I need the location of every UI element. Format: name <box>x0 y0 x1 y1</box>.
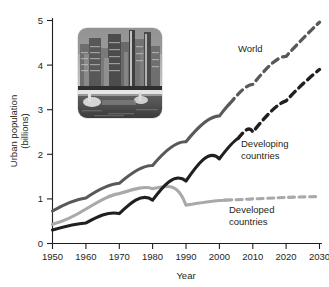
chart-figure: 0 1 2 3 4 5 Urban population (billions) … <box>0 0 329 287</box>
x-tick-label-1960: 1960 <box>75 251 96 262</box>
x-axis-title: Year <box>176 270 195 281</box>
series-label-developed-countries: Developed countries <box>229 204 274 227</box>
y-axis-title-line1: Urban population <box>8 95 19 167</box>
series-world <box>53 22 320 211</box>
y-axis-title-line2: (billions) <box>19 113 30 148</box>
series-world-dashed <box>230 22 320 104</box>
series-label-developing-countries: Developing countries <box>241 138 289 161</box>
series-label-developed-line2: countries <box>229 216 268 227</box>
series-label-developing-line2: countries <box>241 150 280 161</box>
series-label-developed-line1: Developed <box>229 204 274 215</box>
series-label-developing-line1: Developing <box>241 138 289 149</box>
x-axis-ticks <box>53 244 320 250</box>
y-tick-label-3: 3 <box>38 104 43 115</box>
x-tick-label-2030: 2030 <box>309 251 329 262</box>
x-axis-tick-labels: 1950 1960 1970 1980 1990 2000 2010 2020 … <box>42 251 329 262</box>
series-developed-countries-dashed <box>226 197 320 201</box>
series-world-solid <box>53 104 230 211</box>
y-tick-label-4: 4 <box>38 60 43 71</box>
x-tick-label-2020: 2020 <box>276 251 297 262</box>
x-tick-label-1970: 1970 <box>109 251 130 262</box>
x-tick-label-2000: 2000 <box>209 251 230 262</box>
series-developing-countries-dashed <box>238 70 320 139</box>
y-axis-tick-labels: 0 1 2 3 4 5 <box>38 15 43 249</box>
y-tick-label-1: 1 <box>38 193 43 204</box>
x-tick-label-1950: 1950 <box>42 251 63 262</box>
urban-population-line-chart: 0 1 2 3 4 5 Urban population (billions) … <box>0 0 329 287</box>
y-axis-title: Urban population (billions) <box>8 95 30 167</box>
x-tick-label-1990: 1990 <box>175 251 196 262</box>
y-tick-label-5: 5 <box>38 15 43 26</box>
series-label-world: World <box>238 43 263 54</box>
series-developed-countries-solid <box>53 186 226 224</box>
y-tick-label-0: 0 <box>38 238 43 249</box>
x-tick-label-1980: 1980 <box>142 251 163 262</box>
x-tick-label-2010: 2010 <box>242 251 263 262</box>
series-developing-countries-solid <box>53 139 239 231</box>
y-tick-label-2: 2 <box>38 149 43 160</box>
